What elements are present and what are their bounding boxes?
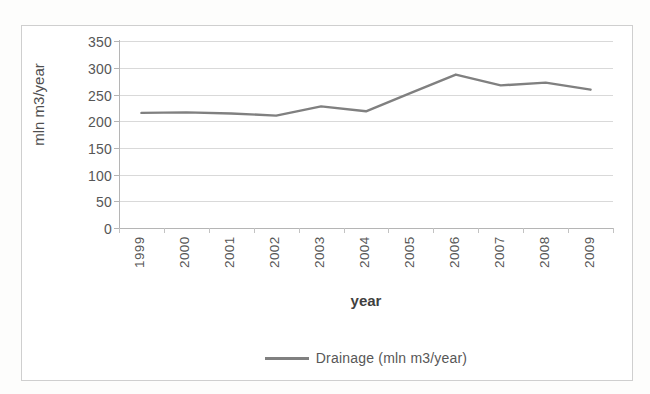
- y-tick-label-100: 100: [52, 168, 112, 184]
- x-tickmark: [254, 228, 255, 233]
- x-tickmark: [388, 228, 389, 233]
- x-axis-title: year: [119, 292, 613, 309]
- x-tick-label-2006: 2006: [447, 236, 465, 296]
- series-line-drainage: [119, 40, 613, 230]
- y-tick-label-50: 50: [52, 194, 112, 210]
- y-axis-title: mln m3/year: [30, 15, 47, 195]
- x-tick-label-2002: 2002: [267, 236, 285, 296]
- legend-label-drainage: Drainage (mln m3/year): [316, 350, 467, 366]
- x-tickmark: [613, 228, 614, 233]
- y-tick-label-300: 300: [52, 61, 112, 77]
- x-tick-label-2005: 2005: [402, 236, 420, 296]
- x-tickmark: [164, 228, 165, 233]
- x-tick-label-2000: 2000: [177, 236, 195, 296]
- x-tickmark: [119, 228, 120, 233]
- x-tickmark: [478, 228, 479, 233]
- x-tickmark: [433, 228, 434, 233]
- x-tick-label-1999: 1999: [132, 236, 150, 296]
- x-tick-label-2009: 2009: [582, 236, 600, 296]
- x-tick-label-2007: 2007: [492, 236, 510, 296]
- chart-legend: Drainage (mln m3/year): [119, 350, 613, 366]
- y-tick-label-200: 200: [52, 114, 112, 130]
- chart-figure: mln m3/year 350 300 250 200 150 100 50 0…: [0, 0, 650, 394]
- x-tick-label-2001: 2001: [222, 236, 240, 296]
- y-axis-tick-labels: 350 300 250 200 150 100 50 0: [48, 0, 112, 394]
- x-tick-label-2003: 2003: [312, 236, 330, 296]
- legend-swatch-drainage: [265, 357, 309, 360]
- x-tick-label-2004: 2004: [357, 236, 375, 296]
- x-tickmark: [344, 228, 345, 233]
- x-tickmark: [568, 228, 569, 233]
- x-tick-label-2008: 2008: [537, 236, 555, 296]
- x-tickmark: [523, 228, 524, 233]
- y-tick-label-0: 0: [52, 221, 112, 237]
- x-tickmark: [209, 228, 210, 233]
- y-tick-label-150: 150: [52, 141, 112, 157]
- y-tick-label-250: 250: [52, 88, 112, 104]
- y-tick-label-350: 350: [52, 34, 112, 50]
- x-tickmark: [299, 228, 300, 233]
